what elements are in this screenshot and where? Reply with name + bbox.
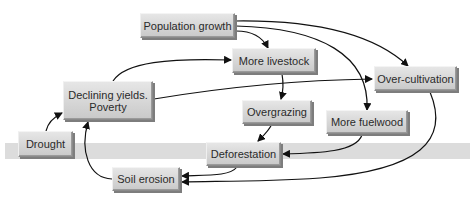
node-soil-erosion: Soil erosion: [112, 167, 180, 191]
node-overgrazing: Overgrazing: [242, 100, 312, 124]
node-label: Drought: [26, 138, 65, 150]
node-declining-yields-poverty: Declining yields. Poverty: [63, 81, 153, 120]
arrow-drought-to-declining: [46, 113, 62, 131]
node-more-livestock: More livestock: [232, 48, 316, 73]
node-population-growth: Population growth: [140, 13, 235, 38]
arrow-population-to-livestock: [236, 31, 268, 48]
diagram-canvas: Population growth More livestock Over-cu…: [0, 0, 470, 203]
arrow-declining-to-overcultivation: [154, 79, 372, 99]
arrow-deforestation-to-erosion: [182, 167, 237, 176]
node-label: Deforestation: [211, 148, 276, 160]
node-label: More fuelwood: [331, 116, 403, 128]
node-label: Soil erosion: [117, 173, 174, 185]
node-deforestation: Deforestation: [206, 142, 281, 166]
node-more-fuelwood: More fuelwood: [326, 110, 408, 134]
arrow-livestock-to-overgrazing: [281, 74, 283, 99]
arrow-overgrazing-to-deforestation: [258, 124, 272, 141]
arrow-erosion-to-declining: [85, 122, 112, 179]
arrow-declining-to-livestock: [113, 60, 231, 81]
node-label: Overgrazing: [247, 106, 307, 118]
node-label: Declining yields.: [68, 89, 147, 101]
node-label-line2: Poverty: [89, 101, 126, 113]
node-over-cultivation: Over-cultivation: [374, 66, 457, 91]
arrow-fuelwood-to-deforestation: [283, 135, 362, 154]
node-label: Over-cultivation: [377, 73, 453, 85]
node-drought: Drought: [18, 131, 73, 157]
node-label: Population growth: [143, 20, 231, 32]
node-label: More livestock: [239, 55, 309, 67]
